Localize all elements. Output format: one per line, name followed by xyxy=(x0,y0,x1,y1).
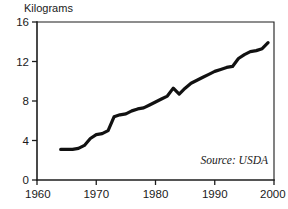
y-tick-label: 12 xyxy=(16,56,29,68)
x-tick-label: 1990 xyxy=(202,188,228,200)
chart-container: Kilograms 0481216 19601970198019902000 S… xyxy=(0,0,288,209)
x-axis-tick-labels: 19601970198019902000 xyxy=(25,188,286,200)
y-tick-label: 4 xyxy=(23,135,30,147)
x-tick-label: 1980 xyxy=(143,188,169,200)
y-tick-label: 0 xyxy=(23,174,29,186)
x-tick-label: 1960 xyxy=(25,188,51,200)
y-axis-tick-labels: 0481216 xyxy=(16,16,29,186)
source-annotation: Source: USDA xyxy=(200,154,269,166)
y-tick-label: 8 xyxy=(23,95,29,107)
y-tick-label: 16 xyxy=(16,16,29,28)
x-tick-label: 2000 xyxy=(260,188,286,200)
y-axis-title: Kilograms xyxy=(24,2,73,14)
line-chart: Kilograms 0481216 19601970198019902000 S… xyxy=(0,0,288,209)
x-tick-label: 1970 xyxy=(83,188,109,200)
data-series-line xyxy=(61,43,268,150)
